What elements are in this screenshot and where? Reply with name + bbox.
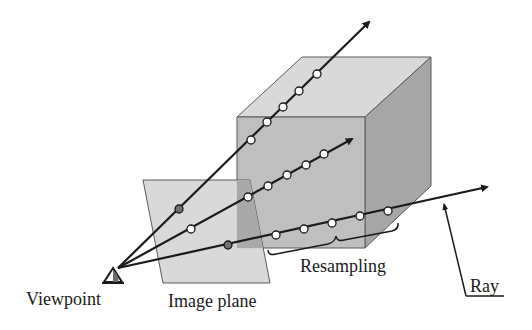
ray-casting-diagram [0,0,532,330]
sample-point [279,103,287,111]
pixel-point [175,205,183,213]
resampling-label: Resampling [300,257,386,275]
sample-point [302,161,310,169]
sample-point [300,225,308,233]
sample-point [283,171,291,179]
sample-point [244,193,252,201]
sample-point [313,70,321,78]
sample-point [247,136,255,144]
viewpoint-label: Viewpoint [26,290,101,308]
sample-point [264,182,272,190]
sample-point [263,118,271,126]
sample-point [295,87,303,95]
ray-label: Ray [470,277,499,295]
sample-point [384,207,392,215]
sample-point [187,225,195,233]
sample-point [328,219,336,227]
eye-icon [102,268,124,283]
ray-callout-pointer [444,204,466,296]
pixel-point [224,241,232,249]
image-plane-label: Image plane [168,292,256,310]
sample-point [272,231,280,239]
sample-point [356,212,364,220]
sample-point [320,150,328,158]
